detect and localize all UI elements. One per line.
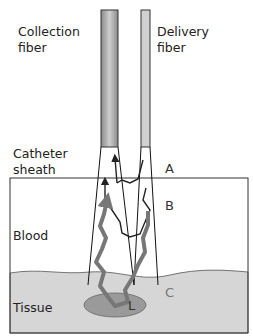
delivery-fiber [141,10,150,147]
tissue-label: Tissue [13,300,52,316]
marker-c: C [165,285,174,300]
marker-l: L [128,298,135,313]
marker-b: B [165,198,174,213]
catheter-sheath-label: Catheter sheath [13,146,68,178]
delivery-fiber-label: Delivery fiber [157,24,209,56]
marker-a: A [165,161,174,176]
collection-fiber-label: Collection fiber [18,24,80,56]
blood-label: Blood [13,228,48,244]
collection-fiber [101,10,118,147]
